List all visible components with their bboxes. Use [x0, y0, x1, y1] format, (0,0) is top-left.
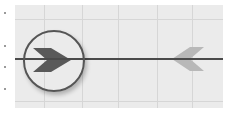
grid-panel	[15, 5, 223, 108]
grid-line-vertical	[118, 5, 119, 108]
selection-ring	[23, 30, 85, 92]
margin-tick	[4, 66, 6, 68]
grid-line-vertical	[157, 5, 158, 108]
diagram-canvas	[0, 0, 236, 119]
margin-tick	[4, 45, 6, 47]
margin-tick	[4, 88, 6, 90]
margin-tick	[4, 12, 6, 14]
